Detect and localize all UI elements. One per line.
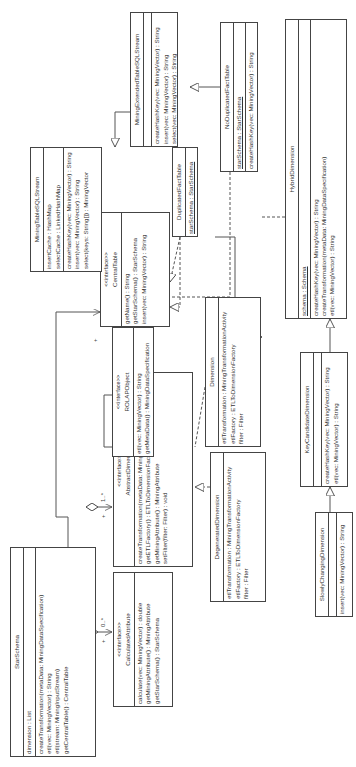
class-degenerated-dimension: DegeneratedDimension etlTransformation :… — [210, 452, 266, 602]
method: getName() : String — [123, 215, 131, 324]
multiplicity-calc-end: + — [100, 639, 106, 643]
class-header: <<interface>> CalculatedAttribute — [114, 573, 135, 706]
stereotype: <<interface>> — [115, 330, 123, 454]
class-central-table: <<interface>> CentralTable getName() : S… — [100, 212, 170, 327]
method: insert(vec: MiningVector) : String — [338, 515, 346, 614]
class-name: NoDuplicatedFactTable — [221, 23, 234, 171]
methods-section: insert(vec: MiningVector) : String — [337, 513, 347, 616]
class-name: SlowlyChangingDimension — [316, 513, 329, 616]
multiplicity-calc: 0..* — [100, 618, 106, 627]
class-key-candidate-dimension: KeyCandidateDimension createHashKey(vec:… — [300, 352, 348, 487]
methods-section: calculate(vec: MiningVector) : double ge… — [135, 573, 162, 706]
class-calculated-attribute: <<interface>> CalculatedAttribute calcul… — [113, 572, 173, 707]
class-no-duplicated-fact-table: NoDuplicatedFactTable starSchema : StarS… — [220, 22, 258, 172]
attributes-section: dimension : List — [24, 548, 35, 756]
multiplicity-dim: 1..* — [100, 493, 106, 502]
class-star-schema: StarSchema dimension : List createTransf… — [10, 547, 96, 757]
method: getStarSchema() : StarSchema — [131, 215, 139, 324]
method: select(keys: String[]) : MiningVector — [82, 150, 90, 269]
method: etl(vec: MiningVector) : String — [135, 330, 143, 454]
attributes-section: schema : Schema — [299, 20, 310, 318]
method: createHashKey(vec: MiningVector) : Strin… — [323, 355, 331, 484]
attribute: insertCache : HashMap — [45, 150, 53, 269]
methods-section: createHashKey(vec: MiningVector) : Strin… — [246, 23, 256, 171]
class-hybrid-dimension: HybridDimension schema : Schema createHa… — [285, 19, 347, 319]
method: getMiningAttribute() : MiningAttribute — [144, 575, 152, 704]
methods-section: getName() : String getStarSchema() : Sta… — [122, 213, 149, 326]
class-name: Dimension — [206, 298, 219, 446]
multiplicity-central: + — [92, 338, 98, 342]
attribute: etlFactory : ETLToDimensionFactory — [229, 300, 237, 444]
attribute: etlFactory : ETLToDimensionFactory — [234, 455, 242, 599]
class-rolap-object: <<interface>> ROLAPObject etl(vec: Minin… — [112, 327, 154, 457]
class-name: MiningExtendedTableSQLStream — [131, 13, 144, 146]
method: createHashKey(vec: MiningVector) : Strin… — [65, 150, 73, 269]
method: etl(vec: MiningVector) : String — [328, 22, 336, 316]
methods-section: createHashKey(vec: MiningVector) : Strin… — [64, 148, 91, 271]
method: createHashKey(vec: MiningVector) : Strin… — [153, 15, 161, 144]
method: etl(vec: MiningVector) : String — [45, 550, 53, 754]
method: etl(stream: MiningInputStream) — [53, 550, 61, 754]
method: etl(vec: MiningVector) : String — [332, 355, 340, 484]
class-name: CentralTable — [111, 215, 119, 324]
multiplicity-dim-end: + — [100, 514, 106, 518]
attribute: etlTransformation : MiningTransformation… — [225, 455, 233, 599]
method: createTransformation(metaData: MiningDat… — [320, 22, 328, 316]
attribute: selectCache : LinkedHashMap — [54, 150, 62, 269]
attributes-section — [329, 513, 337, 616]
attribute: starSchema : StarSchema — [187, 150, 195, 234]
methods-section: createHashKey(vec: MiningVector) : Strin… — [322, 353, 341, 486]
method: insert(vec: MiningVector) : String — [140, 215, 148, 324]
attributes-section: etlTransformation : MiningTransformation… — [224, 453, 251, 601]
class-mining-extended-table-sql-stream: MiningExtendedTableSQLStream createHashK… — [130, 12, 178, 147]
attributes-section: starSchema : StarSchema — [186, 148, 196, 236]
uml-diagram: StarSchema dimension : List createTransf… — [0, 0, 356, 767]
method: calculate(vec: MiningVector) : double — [136, 575, 144, 704]
attributes-section: starSchema : StarSchema — [234, 23, 245, 171]
class-header: <<interface>> CentralTable — [101, 213, 122, 326]
class-header: <<interface>> ROLAPObject — [113, 328, 134, 456]
method: createTransformation(metaData: MiningDat… — [37, 550, 45, 754]
method: createHashKey(vec: MiningVector) : Strin… — [312, 22, 320, 316]
class-name: KeyCandidateDimension — [301, 353, 314, 486]
attribute: schema : Schema — [300, 22, 308, 316]
attribute: filter : Filter — [237, 300, 245, 444]
class-name: StarSchema — [11, 548, 24, 756]
stereotype: <<interface>> — [103, 215, 111, 324]
methods-section: createHashKey(vec: MiningVector) : Strin… — [311, 20, 338, 318]
attribute: dimension : List — [25, 550, 33, 754]
stereotype: <<interface>> — [116, 575, 124, 704]
class-name: ROLAPObject — [123, 330, 131, 454]
attribute: etlTransformation : MiningTransformation… — [220, 300, 228, 444]
class-name: CalculatedAttribute — [124, 575, 132, 704]
class-name: DegeneratedDimension — [211, 453, 224, 601]
class-slowly-changing-dimension: SlowlyChangingDimension insert(vec: Mini… — [315, 512, 353, 617]
class-mining-table-sql-stream: MiningTableSQLStream insertCache : HashM… — [30, 147, 102, 272]
method: createHashKey(vec: MiningVector) : Strin… — [247, 25, 255, 169]
attribute: starSchema : StarSchema — [235, 25, 243, 169]
class-name: HybridDimension — [286, 20, 299, 318]
class-dimension: Dimension etlTransformation : MiningTran… — [205, 297, 261, 447]
method: getStarSchema() : StarSchema — [153, 575, 161, 704]
class-name: DuplicatedFactTable — [173, 148, 186, 236]
methods-section: createHashKey(vec: MiningVector) : Strin… — [152, 13, 179, 146]
attributes-section: etlTransformation : MiningTransformation… — [219, 298, 246, 446]
class-duplicated-fact-table: DuplicatedFactTable starSchema : StarSch… — [172, 147, 198, 237]
class-name: MiningTableSQLStream — [31, 148, 44, 271]
methods-section: createTransformation(metaData: MiningDat… — [36, 548, 71, 756]
method: select(vec: MiningVector) : String — [170, 15, 178, 144]
method: getCentralTable() : CentralTable — [62, 550, 70, 754]
method: insert(vec: MiningVector) : String — [73, 150, 81, 269]
method: insert(vec: MiningVector) : String — [162, 15, 170, 144]
attributes-section — [144, 13, 152, 146]
method: setFilter(filter: Filter) : void — [161, 375, 169, 564]
method: getMetaData() : MiningDataSpecification — [143, 330, 151, 454]
attribute: filter : Filter — [242, 455, 250, 599]
attributes-section — [314, 353, 322, 486]
methods-section: etl(vec: MiningVector) : String getMetaD… — [134, 328, 153, 456]
attributes-section: insertCache : HashMap selectCache : Link… — [44, 148, 64, 271]
